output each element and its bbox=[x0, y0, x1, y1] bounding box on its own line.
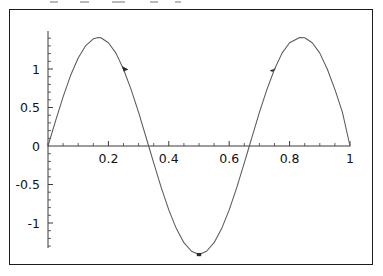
x-tick-label: 0.8 bbox=[280, 151, 300, 166]
direction-arrow-2 bbox=[270, 69, 276, 72]
curve-marker-group bbox=[122, 66, 276, 256]
trough-point bbox=[197, 253, 201, 256]
scan-artifact-fragment bbox=[50, 1, 58, 3]
scan-artifact-strip bbox=[0, 0, 383, 7]
direction-arrow-1 bbox=[122, 66, 128, 72]
scan-artifact-fragment bbox=[112, 1, 125, 3]
x-tick-label: 1 bbox=[346, 151, 354, 166]
plot-canvas: 0.20.40.60.81 -1-0.500.51 bbox=[10, 10, 374, 266]
scan-artifact-fragment bbox=[150, 1, 158, 3]
scan-artifact-fragment bbox=[175, 1, 181, 3]
y-tick-label: 0 bbox=[32, 139, 40, 154]
y-tick-label: -1 bbox=[28, 216, 40, 231]
y-tick-label-group: -1-0.500.51 bbox=[16, 62, 40, 231]
x-tick-group bbox=[48, 141, 350, 146]
x-tick-label: 0.6 bbox=[219, 151, 239, 166]
x-tick-label: 0.2 bbox=[98, 151, 118, 166]
y-tick-label: 0.5 bbox=[20, 100, 40, 115]
x-tick-label-group: 0.20.40.60.81 bbox=[98, 151, 354, 166]
plot-frame: 0.20.40.60.81 -1-0.500.51 bbox=[9, 9, 373, 265]
scan-artifact-fragment bbox=[80, 1, 89, 3]
y-tick-label: -0.5 bbox=[16, 177, 40, 192]
axes-group bbox=[48, 31, 350, 248]
y-tick-label: 1 bbox=[32, 62, 40, 77]
x-tick-label: 0.4 bbox=[159, 151, 179, 166]
